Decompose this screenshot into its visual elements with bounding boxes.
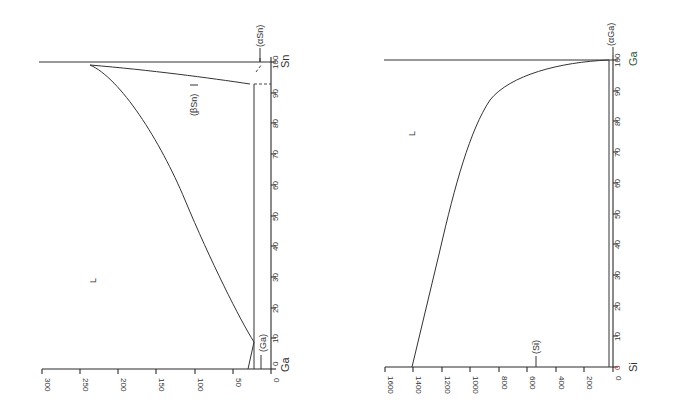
- phase-label-bsn: (βSn): [189, 94, 199, 116]
- ga-liquidus: [248, 342, 254, 369]
- svg-text:50: 50: [271, 212, 280, 221]
- svg-text:100: 100: [196, 378, 205, 392]
- si-ga-chart: 1600 1400 1200 1000 800 600 400 200 0 0 …: [384, 23, 639, 395]
- svg-text:30: 30: [613, 271, 622, 280]
- svg-text:800: 800: [500, 376, 509, 390]
- svg-text:200: 200: [119, 378, 128, 392]
- svg-text:90: 90: [271, 89, 280, 98]
- svg-text:90: 90: [613, 87, 622, 96]
- element-label-si: Si: [627, 362, 639, 372]
- phase-label-asn: (αSn): [255, 25, 265, 47]
- svg-text:0: 0: [613, 365, 622, 370]
- svg-text:0: 0: [614, 376, 623, 381]
- element-label-ga-right: Ga: [627, 50, 639, 66]
- svg-text:300: 300: [43, 378, 52, 392]
- svg-text:250: 250: [81, 378, 90, 392]
- svg-text:40: 40: [271, 242, 280, 251]
- phase-label-si: (Si): [531, 340, 541, 354]
- svg-text:10: 10: [613, 332, 622, 341]
- svg-text:30: 30: [271, 273, 280, 282]
- phase-label-ga: (Ga): [258, 334, 268, 352]
- phase-label-aga: (αGa): [606, 23, 616, 46]
- svg-text:50: 50: [613, 210, 622, 219]
- svg-text:80: 80: [271, 119, 280, 128]
- svg-text:1600: 1600: [386, 376, 395, 394]
- element-label-sn: Sn: [279, 55, 291, 68]
- svg-text:0: 0: [272, 378, 281, 383]
- svg-text:100: 100: [613, 53, 622, 67]
- composition-ticks-right: 0 10 20 30 40 50 60 70 80 90 100: [613, 53, 622, 370]
- asn-arrow: [256, 64, 262, 72]
- svg-text:60: 60: [271, 181, 280, 190]
- bsn-solidus-curve: [90, 65, 250, 84]
- svg-text:150: 150: [157, 378, 166, 392]
- phase-diagrams: 300 250 200 150 100 50 0 0 10 20 30 40: [0, 0, 678, 407]
- svg-text:70: 70: [613, 148, 622, 157]
- svg-text:50: 50: [234, 378, 243, 387]
- svg-text:200: 200: [585, 376, 594, 390]
- element-label-ga-left: Ga: [279, 356, 291, 372]
- svg-text:40: 40: [613, 240, 622, 249]
- svg-text:80: 80: [613, 117, 622, 126]
- svg-text:1200: 1200: [443, 376, 452, 394]
- liquidus-curve-left: [90, 65, 254, 342]
- temperature-ticks-right: 1600 1400 1200 1000 800 600 400 200 0: [385, 367, 623, 394]
- svg-text:20: 20: [613, 302, 622, 311]
- temperature-ticks-left: 300 250 200 150 100 50 0: [42, 369, 281, 392]
- svg-text:400: 400: [557, 376, 566, 390]
- svg-text:20: 20: [271, 304, 280, 313]
- svg-text:10: 10: [271, 334, 280, 343]
- svg-text:1400: 1400: [414, 376, 423, 394]
- svg-text:60: 60: [613, 179, 622, 188]
- svg-text:600: 600: [528, 376, 537, 390]
- svg-text:70: 70: [271, 150, 280, 159]
- liquidus-curve-right: [412, 60, 609, 367]
- composition-ticks-left: 0 10 20 30 40 50 60 70 80 90 100: [271, 55, 280, 369]
- phase-label-L-right: L: [407, 131, 417, 136]
- phase-label-L-left: L: [88, 278, 98, 283]
- ga-sn-chart: 300 250 200 150 100 50 0 0 10 20 30 40: [39, 25, 291, 392]
- svg-text:1000: 1000: [471, 376, 480, 394]
